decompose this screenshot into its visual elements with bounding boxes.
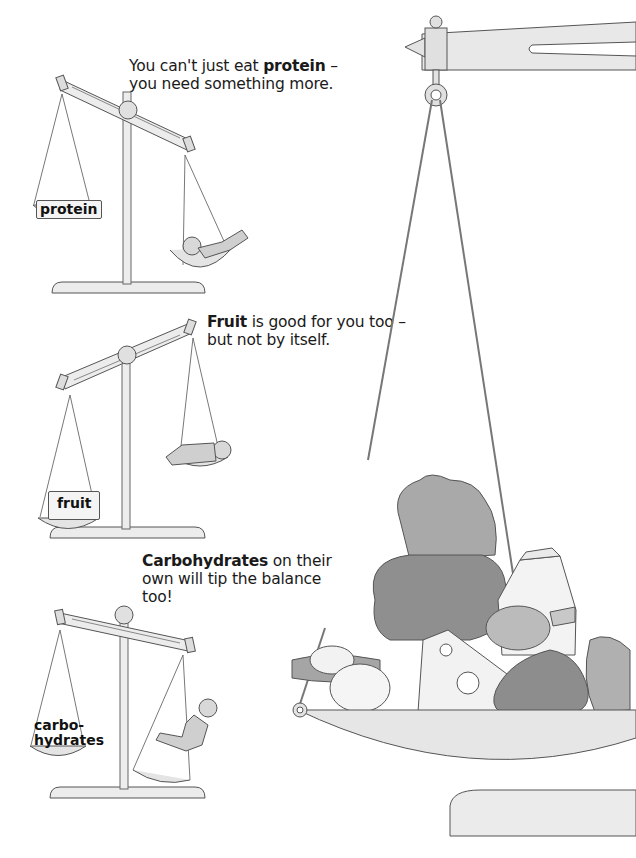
lettuce bbox=[398, 475, 497, 560]
potato bbox=[486, 606, 550, 650]
caption-bold-word: Carbohydrates bbox=[142, 552, 268, 570]
pan-label-protein: protein bbox=[36, 200, 102, 219]
pan-label-fruit: fruit bbox=[48, 491, 100, 520]
big-pan bbox=[298, 710, 636, 759]
pear bbox=[494, 650, 588, 712]
pan-label-carbohydrates: carbo- hydrates bbox=[34, 718, 104, 748]
scale-protein: protein bbox=[0, 60, 300, 310]
scale-carbohydrates: carbo- hydrates bbox=[0, 575, 300, 840]
big-scale bbox=[270, 0, 636, 858]
big-balance-illustration bbox=[270, 0, 636, 858]
onions-and-leek bbox=[292, 646, 390, 712]
child-figure bbox=[166, 441, 231, 465]
balance-scale-illustration bbox=[0, 285, 300, 550]
scale-fruit: fruit bbox=[0, 285, 300, 550]
meat bbox=[586, 637, 630, 712]
child-figure bbox=[156, 699, 217, 751]
balance-scale-illustration bbox=[0, 575, 300, 840]
big-scale-base bbox=[450, 790, 636, 836]
balance-scale-illustration bbox=[0, 60, 300, 310]
label-line: carbo- bbox=[34, 718, 104, 733]
label-line: hydrates bbox=[34, 733, 104, 748]
child-figure bbox=[183, 230, 248, 258]
